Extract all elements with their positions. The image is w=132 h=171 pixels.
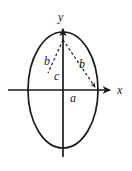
ellipse-diagram-canvas (0, 0, 132, 171)
y-axis-label: y (58, 11, 63, 23)
segment-label-b-right: b (79, 58, 85, 70)
ellipse-figure: y x b b c a (0, 0, 132, 171)
x-axis-label: x (117, 84, 122, 96)
segment-label-c: c (54, 70, 59, 82)
segment-label-a: a (70, 92, 76, 104)
segment-label-b-left: b (44, 55, 50, 67)
